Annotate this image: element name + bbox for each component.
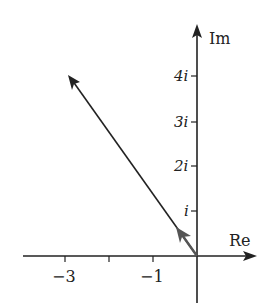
x-tick-label-minus-1: −1: [140, 267, 164, 286]
y-tick-label-1: i: [184, 202, 189, 220]
imaginary-axis: [192, 24, 202, 303]
real-axis-label: Re: [229, 231, 251, 250]
y-tick-label-3: 3i: [174, 113, 189, 131]
y-tick-label-4: 4i: [173, 67, 189, 85]
x-tick-label-minus-3: −3: [52, 267, 76, 286]
complex-plane-diagram: −3 −1 i 2i 3i 4i Im Re: [0, 0, 273, 307]
vector-unit: [176, 227, 197, 256]
imaginary-axis-label: Im: [209, 29, 231, 48]
real-axis: [23, 251, 257, 261]
vector-unit-arrowhead-icon: [176, 227, 191, 243]
y-tick-label-2: 2i: [173, 157, 189, 175]
